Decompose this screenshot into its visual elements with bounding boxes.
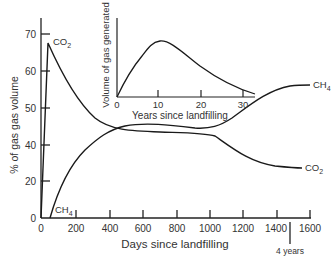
x-tick-1400: 1400 (265, 223, 288, 234)
y-tick-0: 0 (30, 213, 36, 224)
inset-y-axis-title: Volume of gas generated (100, 2, 111, 108)
main-axes (41, 18, 311, 244)
landfill-gas-chart: 70 60 50 40 20 0 0 200 400 600 800 1000 … (0, 0, 335, 264)
x-tick-1200: 1200 (232, 223, 255, 234)
inset-x-axis-title: Years since landfilling (132, 110, 228, 121)
main-x-tick-labels: 0 200 400 600 800 1000 1200 1400 1600 (38, 223, 321, 234)
x-tick-600: 600 (135, 223, 152, 234)
y-tick-20: 20 (25, 176, 37, 187)
x-tick-1600: 1600 (299, 223, 322, 234)
ch4-curve (50, 85, 310, 218)
co2-peak-label: CO2 (53, 36, 71, 49)
main-x-axis-title: Days since landfilling (121, 238, 228, 250)
y-tick-50: 50 (25, 103, 37, 114)
x-tick-1000: 1000 (199, 223, 222, 234)
ch4-end-label: CH4 (313, 79, 331, 92)
inset-x-tick-10: 10 (153, 99, 164, 110)
inset-x-tick-0: 0 (114, 99, 119, 110)
main-y-axis-title: % of gas gas volume (8, 76, 20, 174)
ch4-start-label: CH4 (55, 204, 73, 217)
curve-labels: CO2 CH4 CH4 CO2 (53, 36, 331, 217)
co2-end-label: CO2 (305, 162, 323, 175)
inset-x-tick-20: 20 (196, 99, 207, 110)
y-tick-60: 60 (25, 66, 37, 77)
four-years-label: 4 years (276, 246, 304, 256)
main-curves (41, 43, 310, 218)
x-tick-200: 200 (68, 223, 85, 234)
y-tick-40: 40 (25, 140, 37, 151)
main-y-tick-labels: 70 60 50 40 20 0 (25, 29, 37, 224)
inset-chart: 0 10 20 30 Years since landfilling Volum… (100, 2, 255, 121)
x-tick-0: 0 (38, 223, 44, 234)
y-tick-70: 70 (25, 29, 37, 40)
inset-gas-volume-curve (117, 41, 255, 97)
co2-curve (41, 43, 302, 218)
x-tick-400: 400 (102, 223, 119, 234)
inset-x-tick-30: 30 (238, 99, 249, 110)
x-tick-800: 800 (169, 223, 186, 234)
